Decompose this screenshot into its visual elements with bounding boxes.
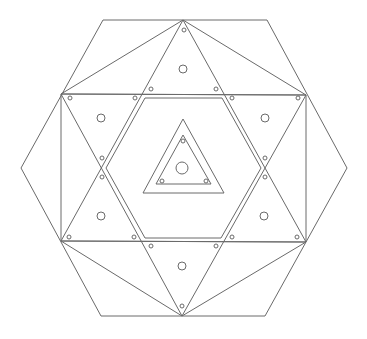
small-circle: [230, 96, 234, 100]
small-circle: [296, 96, 300, 100]
large-circle: [97, 212, 105, 220]
central-triangle-inner: [156, 135, 211, 184]
small-circle: [214, 244, 218, 248]
star-triangle-down: [61, 94, 306, 316]
small-circle: [160, 179, 164, 183]
small-circle: [263, 175, 267, 179]
small-circle: [132, 235, 136, 239]
small-circle: [133, 96, 137, 100]
connector-line: [61, 20, 183, 94]
small-circle: [67, 235, 71, 239]
connector-lines: [61, 20, 306, 316]
large-circle: [178, 262, 186, 270]
small-circle: [230, 235, 234, 239]
small-circle: [149, 87, 153, 91]
small-circle: [100, 156, 104, 160]
connector-line: [61, 241, 182, 316]
diagram-svg: [0, 0, 367, 339]
small-circle: [204, 179, 208, 183]
large-circle: [261, 114, 269, 122]
small-circle: [263, 156, 267, 160]
star-triangle-up: [61, 20, 306, 242]
small-circle: [149, 244, 153, 248]
large-circle: [97, 114, 105, 122]
outer-hexagon: [21, 20, 347, 316]
central-triangle-outer: [143, 119, 224, 193]
small-circle: [180, 304, 184, 308]
large-circle: [260, 212, 268, 220]
small-circle: [68, 96, 72, 100]
large-circle: [176, 162, 188, 174]
connector-line: [182, 242, 306, 316]
small-circle: [295, 235, 299, 239]
small-circle: [182, 28, 186, 32]
small-circle: [181, 139, 185, 143]
large-circles: [97, 65, 269, 270]
small-circle: [100, 175, 104, 179]
geometric-diagram: [0, 0, 367, 339]
small-circle: [214, 87, 218, 91]
large-circle: [179, 65, 187, 73]
